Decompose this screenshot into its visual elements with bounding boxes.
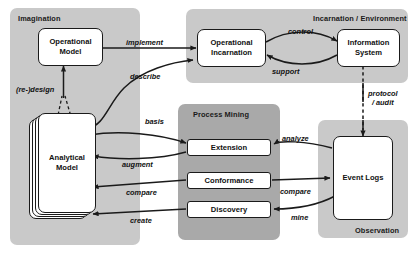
edge-describe — [88, 60, 193, 128]
node-information-system[interactable]: Information System — [337, 29, 400, 67]
edge-mine — [274, 196, 335, 209]
edge-create — [93, 209, 186, 214]
node-operational-model-label: Operational Model — [49, 37, 91, 56]
node-extension[interactable]: Extension — [187, 139, 271, 156]
edge-support — [267, 55, 337, 64]
edge-compare-right — [272, 178, 330, 180]
edge-label-support: support — [272, 67, 300, 76]
edge-augment — [93, 152, 186, 159]
edge-label-redesign: (re-)design — [16, 85, 54, 94]
node-event-logs[interactable]: Event Logs — [333, 136, 393, 220]
node-analytical-model[interactable]: Analytical Model — [38, 113, 96, 213]
diagram-canvas: Imagination Incarnation / Environment Pr… — [0, 0, 415, 257]
node-conformance[interactable]: Conformance — [187, 172, 271, 189]
edge-label-mine: mine — [291, 213, 308, 222]
node-conformance-label: Conformance — [205, 176, 254, 186]
edge-label-protocol-audit: protocol / audit — [368, 90, 398, 107]
node-information-system-label: Information System — [348, 38, 390, 57]
node-discovery-label: Discovery — [211, 205, 247, 215]
node-operational-incarnation-label: Operational Incarnation — [210, 38, 252, 57]
edge-label-compare-left: compare — [126, 188, 157, 197]
edge-label-augment: augment — [122, 160, 153, 169]
edge-label-basis: basis — [145, 117, 164, 126]
edge-label-analyze: analyze — [282, 134, 309, 143]
edge-label-compare-right: compare — [280, 187, 311, 196]
node-event-logs-label: Event Logs — [343, 173, 384, 183]
node-operational-incarnation[interactable]: Operational Incarnation — [197, 29, 266, 67]
node-operational-model[interactable]: Operational Model — [38, 28, 103, 66]
node-analytical-model-label: Analytical Model — [49, 153, 85, 172]
edge-label-create: create — [130, 216, 152, 225]
edge-label-describe: describe — [130, 72, 160, 81]
edge-compare-left — [93, 180, 186, 187]
edge-label-implement: implement — [126, 38, 163, 47]
edge-basis — [89, 133, 186, 143]
edge-label-control: control — [288, 27, 313, 36]
node-extension-label: Extension — [211, 143, 247, 153]
node-discovery[interactable]: Discovery — [187, 201, 271, 218]
